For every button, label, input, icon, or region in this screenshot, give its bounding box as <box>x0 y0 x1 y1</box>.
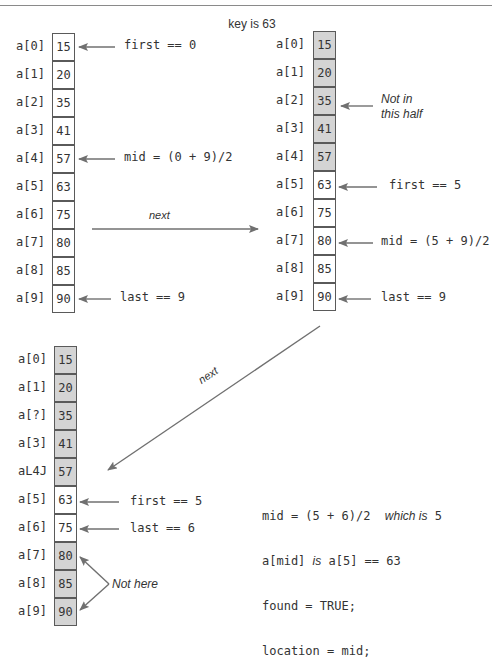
array-cell: 20 <box>54 374 77 402</box>
a-mid-expression: a[mid] <box>262 554 305 568</box>
index-label: a[3] <box>16 123 45 137</box>
mid-annotation: mid = (0 + 9)/2 <box>124 150 232 164</box>
array-cell: 90 <box>54 598 77 626</box>
diagram-title: key is 63 <box>0 17 492 31</box>
array-cell: 41 <box>313 115 336 143</box>
index-label: a[4] <box>16 151 45 165</box>
index-label: a[8] <box>276 261 305 275</box>
array-cell: 35 <box>52 89 75 117</box>
array-cell: 75 <box>313 199 336 227</box>
array-cell: 57 <box>313 143 336 171</box>
not-in-this-half-line1: Not in <box>381 92 412 106</box>
index-label: a[9] <box>276 289 305 303</box>
result-code: mid = (5 + 6)/2 which is 5 a[mid] is a[5… <box>262 479 442 661</box>
array-cell: 80 <box>52 229 75 257</box>
result-line-1: mid = (5 + 6)/2 which is 5 <box>262 509 442 524</box>
index-label: a[2] <box>276 93 305 107</box>
index-label: a[5] <box>16 179 45 193</box>
mid-expression: mid = (5 + 6)/2 <box>262 509 370 523</box>
last-annotation: last == 9 <box>120 290 185 304</box>
index-label: a[1] <box>16 67 45 81</box>
first-annotation: first == 0 <box>124 38 196 52</box>
array-cell: 15 <box>313 31 336 59</box>
index-label: a[7] <box>18 548 47 562</box>
index-label: a[1] <box>18 380 47 394</box>
next-arrow-diagonal <box>108 326 320 470</box>
index-label: a[6] <box>276 205 305 219</box>
array-cell: 35 <box>313 87 336 115</box>
next-label-horizontal: next <box>149 209 170 221</box>
array-cell: 41 <box>52 117 75 145</box>
index-label: a[8] <box>18 576 47 590</box>
index-label: a[4] <box>276 149 305 163</box>
index-label: a[9] <box>16 291 45 305</box>
index-label: a[3] <box>276 121 305 135</box>
array-cell: 57 <box>54 458 77 486</box>
index-label: a[3] <box>18 436 47 450</box>
a5-comparison: a[5] == 63 <box>329 554 401 568</box>
array-cell: 80 <box>54 542 77 570</box>
array-cell: 63 <box>54 486 77 514</box>
array-cell: 75 <box>52 201 75 229</box>
index-label: a[0] <box>16 39 45 53</box>
array-cell: 35 <box>54 402 77 430</box>
index-label: a[?] <box>18 408 47 422</box>
array-cell: 90 <box>313 283 336 311</box>
mid-value: 5 <box>435 509 442 523</box>
which-is-text: which is <box>385 509 428 523</box>
last-annotation: last == 6 <box>130 521 195 535</box>
header-rule <box>0 5 492 6</box>
index-label: a[6] <box>16 207 45 221</box>
is-text: is <box>313 554 322 568</box>
array-cell: 63 <box>313 171 336 199</box>
result-line-3: found = TRUE; <box>262 599 442 614</box>
not-here-annotation: Not here <box>112 577 158 591</box>
first-annotation: first == 5 <box>130 494 202 508</box>
array-cell: 20 <box>52 61 75 89</box>
result-line-2: a[mid] is a[5] == 63 <box>262 554 442 569</box>
array-cell: 41 <box>54 430 77 458</box>
index-label: a[8] <box>16 263 45 277</box>
index-label: a[2] <box>16 95 45 109</box>
not-here-arrow-down <box>80 584 109 610</box>
array-cell: 63 <box>52 173 75 201</box>
next-label-diagonal: next <box>196 364 220 386</box>
index-label: a[7] <box>16 235 45 249</box>
index-label: a[5] <box>18 492 47 506</box>
array-cell: 90 <box>52 285 75 313</box>
array-cell: 85 <box>54 570 77 598</box>
array-cell: 85 <box>52 257 75 285</box>
not-here-arrow-up <box>80 557 109 584</box>
index-label: a[5] <box>276 177 305 191</box>
index-label: a[0] <box>18 352 47 366</box>
first-annotation: first == 5 <box>389 178 461 192</box>
last-annotation: last == 9 <box>381 290 446 304</box>
result-line-4: location = mid; <box>262 644 442 659</box>
index-label: a[9] <box>18 604 47 618</box>
array-cell: 80 <box>313 227 336 255</box>
array-cell: 57 <box>52 145 75 173</box>
index-label: a[0] <box>276 37 305 51</box>
array-cell: 15 <box>52 33 75 61</box>
index-label: a[6] <box>18 520 47 534</box>
array-cell: 20 <box>313 59 336 87</box>
array-cell: 15 <box>54 346 77 374</box>
index-label: a[1] <box>276 65 305 79</box>
index-label: a[7] <box>276 233 305 247</box>
array-cell: 75 <box>54 514 77 542</box>
index-label: aL4J <box>18 464 47 478</box>
array-cell: 85 <box>313 255 336 283</box>
mid-annotation: mid = (5 + 9)/2 <box>381 234 489 248</box>
not-in-this-half-line2: this half <box>381 107 422 121</box>
